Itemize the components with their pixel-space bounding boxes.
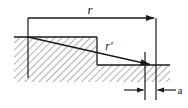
hatched-body (14, 37, 170, 82)
label-a: a (178, 84, 183, 96)
label-r-prime: r′ (105, 39, 113, 53)
technical-diagram: r r′ a (0, 0, 188, 108)
label-r: r (87, 2, 93, 17)
figure-container: r r′ a (0, 0, 188, 108)
